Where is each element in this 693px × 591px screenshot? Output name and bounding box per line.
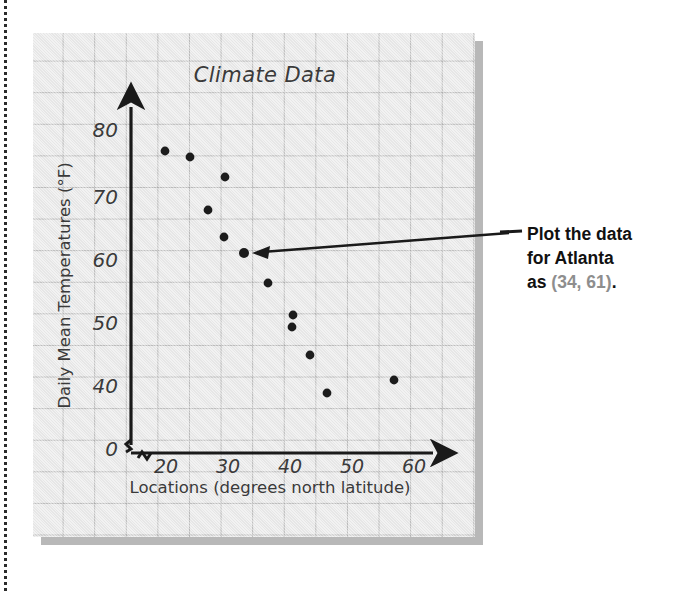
data-point [264, 279, 273, 288]
data-points [161, 147, 399, 398]
callout-line-3-prefix: as [527, 272, 551, 292]
callout-line-2: for Atlanta [527, 246, 687, 270]
callout-line-1: Plot the data [527, 222, 687, 246]
callout-text: Plot the data for Atlanta as (34, 61). [527, 222, 687, 294]
callout-coordinate-value: (34, 61) [551, 272, 611, 292]
data-point [306, 351, 315, 360]
y-axis-break-icon [126, 440, 131, 452]
callout-arrowhead-icon [252, 246, 270, 259]
data-point [390, 376, 399, 385]
data-point [161, 147, 170, 156]
plot-canvas [0, 0, 693, 591]
data-point [288, 323, 297, 332]
data-point [323, 389, 332, 398]
data-point [220, 233, 229, 242]
data-point-atlanta [239, 248, 249, 258]
callout-line-3-suffix: . [612, 272, 617, 292]
callout-arrow [262, 233, 509, 252]
data-point [289, 311, 298, 320]
callout-line-3: as (34, 61). [527, 270, 687, 294]
callout-dash [500, 231, 522, 232]
data-point [186, 153, 195, 162]
data-point [204, 206, 213, 215]
data-point [221, 173, 230, 182]
